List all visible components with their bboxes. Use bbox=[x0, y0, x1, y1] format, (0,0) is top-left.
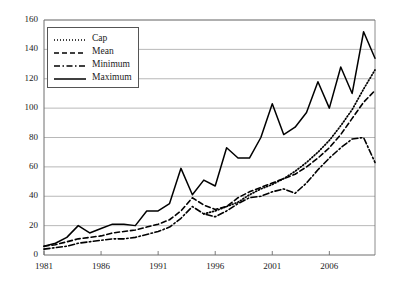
legend-item-maximum: Maximum bbox=[53, 70, 132, 83]
x-tick-label: 2006 bbox=[309, 261, 349, 271]
x-tick-label: 1986 bbox=[81, 261, 121, 271]
legend-item-minimum: Minimum bbox=[53, 57, 132, 70]
x-tick-label: 2001 bbox=[252, 261, 292, 271]
y-tick-label: 0 bbox=[4, 249, 38, 259]
legend-label: Mean bbox=[92, 45, 114, 57]
series-line-minimum bbox=[44, 138, 375, 250]
legend-item-cap: Cap bbox=[53, 31, 132, 44]
y-tick-label: 140 bbox=[4, 43, 38, 53]
y-tick-label: 160 bbox=[4, 14, 38, 24]
y-tick-label: 80 bbox=[4, 132, 38, 142]
x-tick-label: 1996 bbox=[195, 261, 235, 271]
series-line-mean bbox=[44, 91, 375, 247]
y-tick-label: 120 bbox=[4, 73, 38, 83]
legend-item-mean: Mean bbox=[53, 44, 132, 57]
y-tick-label: 100 bbox=[4, 102, 38, 112]
x-tick-label: 1991 bbox=[138, 261, 178, 271]
legend-swatch-icon bbox=[53, 32, 87, 44]
y-tick-label: 20 bbox=[4, 220, 38, 230]
legend-label: Minimum bbox=[92, 58, 130, 70]
legend-label: Cap bbox=[92, 32, 107, 44]
line-chart: 020406080100120140160 198119861991199620… bbox=[0, 0, 396, 288]
x-tick-label: 1981 bbox=[24, 261, 64, 271]
legend-swatch-icon bbox=[53, 58, 87, 70]
y-tick-label: 60 bbox=[4, 161, 38, 171]
legend-swatch-icon bbox=[53, 45, 87, 57]
chart-legend: CapMeanMinimumMaximum bbox=[47, 27, 139, 88]
legend-label: Maximum bbox=[92, 71, 132, 83]
legend-swatch-icon bbox=[53, 71, 87, 83]
x-axis-ticks bbox=[44, 251, 329, 255]
y-tick-label: 40 bbox=[4, 190, 38, 200]
